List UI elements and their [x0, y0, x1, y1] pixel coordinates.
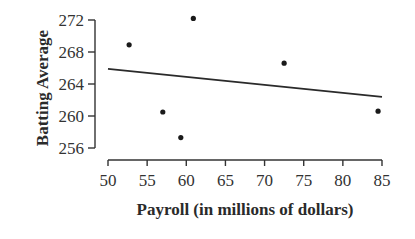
- x-tick-label: 80: [334, 171, 351, 190]
- x-axis: 5055606570758085: [100, 160, 391, 190]
- y-axis-title: Batting Average: [33, 29, 52, 146]
- data-point: [191, 16, 196, 21]
- x-tick-label: 55: [139, 171, 156, 190]
- trend-line: [108, 69, 382, 97]
- x-tick-label: 85: [374, 171, 391, 190]
- y-tick-label: 268: [59, 43, 85, 62]
- data-point: [160, 109, 165, 114]
- data-point: [375, 109, 380, 114]
- data-point: [178, 135, 183, 140]
- x-axis-title: Payroll (in millions of dollars): [137, 200, 354, 219]
- data-points: [127, 16, 381, 140]
- x-tick-label: 60: [178, 171, 195, 190]
- x-tick-label: 65: [217, 171, 234, 190]
- x-tick-label: 50: [100, 171, 117, 190]
- data-point: [282, 61, 287, 66]
- y-axis: 256260264268272: [59, 11, 96, 158]
- y-tick-label: 256: [59, 139, 85, 158]
- x-tick-label: 75: [295, 171, 312, 190]
- data-point: [127, 42, 132, 47]
- x-tick-label: 70: [256, 171, 273, 190]
- scatter-chart: 256260264268272 5055606570758085 Batting…: [0, 0, 415, 239]
- y-tick-label: 260: [59, 107, 85, 126]
- y-tick-label: 272: [59, 11, 85, 30]
- y-tick-label: 264: [59, 75, 85, 94]
